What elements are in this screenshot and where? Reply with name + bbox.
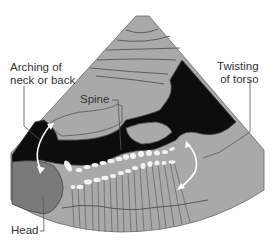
label-head: Head — [11, 224, 39, 237]
label-spine: Spine — [80, 93, 109, 106]
label-arching-line2: neck or back — [10, 74, 75, 87]
label-arching: Arching of neck or back — [10, 61, 75, 87]
label-twisting-line1: Twisting — [217, 60, 259, 73]
label-twisting: Twisting of torso — [217, 60, 259, 86]
fetal-head — [12, 161, 63, 214]
label-arching-line1: Arching of — [10, 61, 75, 74]
label-twisting-line2: of torso — [217, 73, 259, 86]
ultrasound-diagram — [0, 0, 276, 242]
